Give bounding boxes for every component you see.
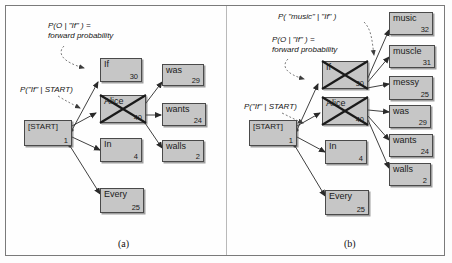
node-value: 31 xyxy=(423,58,431,67)
node-value: 24 xyxy=(194,116,202,125)
node-label: was xyxy=(393,106,409,117)
node-value: 2 xyxy=(423,176,427,185)
node-value: 29 xyxy=(419,118,427,127)
node-value: 30 xyxy=(130,72,138,81)
node-walls-a[interactable]: walls 2 xyxy=(162,140,204,162)
node-value: 30 xyxy=(356,79,364,88)
node-label: walls xyxy=(393,164,413,175)
node-value: 4 xyxy=(359,154,363,163)
node-if-b[interactable]: If 30 xyxy=(322,61,368,89)
node-walls-b[interactable]: walls 2 xyxy=(389,163,431,186)
node-value: 2 xyxy=(196,152,200,161)
annotation-line-1: P("If" | START) xyxy=(20,85,73,95)
node-value: 1 xyxy=(289,136,293,145)
annotation-line-1: P(O | "If" ) = xyxy=(48,21,113,31)
node-label: In xyxy=(329,141,337,152)
node-value: 1 xyxy=(64,136,68,145)
annotation-transition-probability-b: P("If" | START) xyxy=(244,102,297,112)
figure-root: [START] 1 If 30 Alice 40 In 4 Every 25 w… xyxy=(0,0,452,263)
node-value: 25 xyxy=(132,203,140,212)
node-muscle-b[interactable]: muscle 31 xyxy=(389,45,435,68)
annotation-line-1: P("If" | START) xyxy=(244,102,297,112)
annotation-transition-probability-a: P("If" | START) xyxy=(20,85,73,95)
node-label: was xyxy=(166,65,182,76)
node-alice-b[interactable]: Alice 40 xyxy=(322,97,368,125)
node-label: Alice xyxy=(104,96,124,107)
node-value: 4 xyxy=(134,152,138,161)
node-value: 24 xyxy=(421,147,429,156)
annotation-line-2: forward probability xyxy=(272,45,337,55)
node-every-b[interactable]: Every 25 xyxy=(325,190,369,215)
node-if-a[interactable]: If 30 xyxy=(100,58,142,82)
node-label: [START] xyxy=(28,121,58,132)
panel-divider xyxy=(226,6,227,255)
node-label: muscle xyxy=(393,46,422,57)
annotation-line-1: P( "music" | "If" ) xyxy=(278,12,336,22)
node-label: [START] xyxy=(253,121,283,132)
caption-panel-a: (a) xyxy=(118,238,129,249)
node-label: wants xyxy=(393,135,417,146)
node-label: wants xyxy=(166,104,190,115)
node-label: Alice xyxy=(326,98,346,109)
node-value: 29 xyxy=(192,76,200,85)
node-value: 25 xyxy=(357,205,365,214)
node-start-b[interactable]: [START] 1 xyxy=(249,120,297,146)
node-music-b[interactable]: music 32 xyxy=(389,12,433,35)
annotation-emission-probability-b: P( "music" | "If" ) xyxy=(278,12,336,22)
node-label: messy xyxy=(393,77,419,88)
node-wants-a[interactable]: wants 24 xyxy=(162,103,206,126)
node-label: Every xyxy=(104,189,127,200)
annotation-forward-probability-a: P(O | "If" ) = forward probability xyxy=(48,21,113,41)
node-value: 40 xyxy=(134,113,142,122)
caption-panel-b: (b) xyxy=(344,238,356,249)
node-label: music xyxy=(393,13,417,24)
node-every-a[interactable]: Every 25 xyxy=(100,188,144,213)
node-was-b[interactable]: was 29 xyxy=(389,105,431,128)
annotation-forward-probability-b: P(O | "If" ) = forward probability xyxy=(272,35,337,55)
node-label: In xyxy=(104,139,112,150)
node-start-a[interactable]: [START] 1 xyxy=(24,120,72,146)
node-messy-b[interactable]: messy 25 xyxy=(389,76,433,100)
node-label: If xyxy=(326,62,331,73)
annotation-line-2: forward probability xyxy=(48,31,113,41)
node-value: 25 xyxy=(421,90,429,99)
node-value: 32 xyxy=(421,25,429,34)
node-alice-a[interactable]: Alice 40 xyxy=(100,95,146,123)
node-in-b[interactable]: In 4 xyxy=(325,140,367,164)
node-was-a[interactable]: was 29 xyxy=(162,64,204,86)
node-wants-b[interactable]: wants 24 xyxy=(389,134,433,157)
node-label: If xyxy=(104,59,109,70)
node-value: 40 xyxy=(356,115,364,124)
annotation-line-1: P(O | "If" ) = xyxy=(272,35,337,45)
node-label: Every xyxy=(329,191,352,202)
node-in-a[interactable]: In 4 xyxy=(100,138,142,162)
node-label: walls xyxy=(166,141,186,152)
